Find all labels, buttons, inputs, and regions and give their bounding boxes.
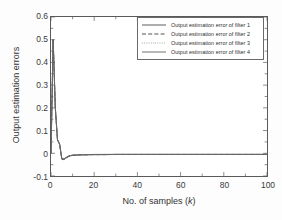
- x-tick-label: 60: [161, 181, 201, 190]
- x-tick-label: 80: [204, 181, 244, 190]
- x-axis-title-suffix: ): [193, 196, 196, 206]
- legend-label: Output estimation error of filter 1: [167, 21, 250, 29]
- legend-label: Output estimation error of filter 3: [167, 39, 250, 47]
- x-tick-label: 40: [117, 181, 157, 190]
- legend-item[interactable]: Output estimation error of filter 3: [141, 39, 260, 47]
- legend-item[interactable]: Output estimation error of filter 4: [141, 48, 260, 56]
- x-tick-label: 20: [74, 181, 114, 190]
- x-tick-label: 100: [248, 181, 282, 190]
- y-axis-title: Output estimation errors: [11, 15, 21, 175]
- legend-label: Output estimation error of filter 2: [167, 30, 250, 38]
- legend-item[interactable]: Output estimation error of filter 1: [141, 21, 260, 29]
- figure: -0.100.10.20.30.40.50.6 020406080100 Out…: [0, 0, 282, 220]
- x-tick-label: 0: [30, 181, 70, 190]
- legend-line-swatch: [141, 30, 167, 38]
- legend-item[interactable]: Output estimation error of filter 2: [141, 30, 260, 38]
- legend-line-swatch: [141, 48, 167, 56]
- legend-line-swatch: [141, 39, 167, 47]
- x-axis-title-prefix: No. of samples (: [122, 196, 188, 206]
- x-axis-title: No. of samples (k): [50, 196, 268, 206]
- legend-line-swatch: [141, 21, 167, 29]
- legend-label: Output estimation error of filter 4: [167, 48, 250, 56]
- legend: Output estimation error of filter 1Outpu…: [137, 17, 264, 60]
